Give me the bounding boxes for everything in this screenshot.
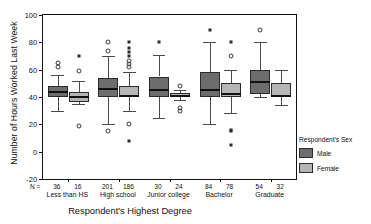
extreme-point (77, 55, 80, 58)
legend-label-female: Female (317, 165, 339, 172)
whisker-lower (159, 97, 160, 118)
legend-swatch-female (299, 163, 313, 173)
whisker-cap-lower (51, 111, 64, 112)
whisker-cap-upper (203, 42, 216, 43)
whisker-upper (79, 81, 80, 92)
x-tick (119, 179, 120, 182)
whisker-cap-upper (174, 90, 187, 91)
boxplot-figure: Number of Hours Worked Last Week -200204… (0, 0, 371, 224)
whisker-cap-upper (153, 55, 166, 56)
outlier-point (228, 54, 233, 59)
whisker-upper (159, 55, 160, 77)
y-tick-label: 100 (25, 11, 37, 20)
whisker-lower (210, 97, 211, 124)
y-tick (39, 42, 43, 43)
whisker-cap-lower (72, 104, 85, 105)
whisker-lower (129, 97, 130, 111)
whisker-upper (108, 56, 109, 78)
whisker-upper (210, 42, 211, 72)
outlier-point (76, 69, 81, 74)
extreme-point (229, 128, 232, 131)
median-line (200, 89, 220, 91)
n-count-female: 32 (277, 183, 284, 190)
whisker-upper (129, 72, 130, 86)
n-count-female: 16 (74, 183, 81, 190)
median-line (221, 93, 241, 95)
whisker-upper (58, 75, 59, 86)
legend-title: Respondent's Sex (299, 136, 369, 143)
x-category-label: High school (100, 191, 136, 198)
median-line (98, 88, 118, 90)
x-tick (170, 179, 171, 182)
plot-area: -20020406080100 (42, 14, 297, 180)
legend-item-female: Female (299, 163, 369, 173)
extreme-point (128, 139, 131, 142)
y-tick (39, 124, 43, 125)
outlier-point (178, 105, 183, 110)
whisker-cap-lower (224, 113, 237, 114)
median-line (250, 81, 270, 83)
outlier-point (258, 28, 263, 33)
y-axis-title: Number of Hours Worked Last Week (9, 13, 19, 173)
outlier-point (55, 60, 60, 65)
median-line (149, 89, 169, 91)
n-count-male: 84 (205, 183, 212, 190)
n-count-female: 24 (175, 183, 182, 190)
y-tick (39, 152, 43, 153)
whisker-cap-lower (153, 118, 166, 119)
extreme-point (229, 143, 232, 146)
extreme-point (158, 41, 161, 44)
whisker-lower (231, 97, 232, 113)
median-line (69, 96, 89, 98)
whisker-cap-lower (203, 124, 216, 125)
whisker-cap-upper (254, 42, 267, 43)
outlier-point (106, 40, 111, 45)
legend: Respondent's Sex Male Female (299, 136, 369, 178)
box (200, 72, 220, 97)
whisker-cap-upper (51, 75, 64, 76)
extreme-point (128, 41, 131, 44)
legend-item-male: Male (299, 148, 369, 158)
n-count-male: 201 (102, 183, 113, 190)
y-tick-label: 0 (33, 147, 37, 156)
y-tick-label: 20 (29, 120, 37, 129)
whisker-cap-upper (123, 72, 136, 73)
whisker-upper (260, 42, 261, 69)
x-tick (68, 179, 69, 182)
whisker-cap-lower (254, 97, 267, 98)
x-category-label: Junior college (147, 191, 190, 198)
y-tick (39, 70, 43, 71)
whisker-cap-lower (102, 124, 115, 125)
outlier-point (106, 48, 111, 53)
x-tick (271, 179, 272, 182)
x-category-label: Graduate (255, 191, 284, 198)
n-count-male: 36 (53, 183, 60, 190)
y-tick (39, 179, 43, 180)
x-category-label: Less than HS (47, 191, 88, 198)
y-tick-label: 80 (29, 38, 37, 47)
whisker-cap-lower (174, 100, 187, 101)
extreme-point (229, 41, 232, 44)
whisker-lower (281, 97, 282, 105)
legend-label-male: Male (317, 150, 331, 157)
legend-swatch-male (299, 148, 313, 158)
median-line (48, 91, 68, 93)
x-tick (220, 179, 221, 182)
whisker-cap-upper (72, 81, 85, 82)
outlier-point (178, 84, 183, 89)
y-tick (39, 15, 43, 16)
median-line (119, 95, 139, 97)
whisker-cap-upper (224, 70, 237, 71)
x-category-label: Bachelor (205, 191, 232, 198)
outlier-point (76, 123, 81, 128)
outlier-point (106, 129, 111, 134)
extreme-point (128, 46, 131, 49)
y-tick (39, 97, 43, 98)
whisker-upper (281, 70, 282, 84)
y-tick-label: 60 (29, 65, 37, 74)
y-tick-label: 40 (29, 93, 37, 102)
median-line (170, 95, 190, 97)
n-count-male: 30 (154, 183, 161, 190)
whisker-cap-upper (275, 70, 288, 71)
n-count-female: 78 (226, 183, 233, 190)
